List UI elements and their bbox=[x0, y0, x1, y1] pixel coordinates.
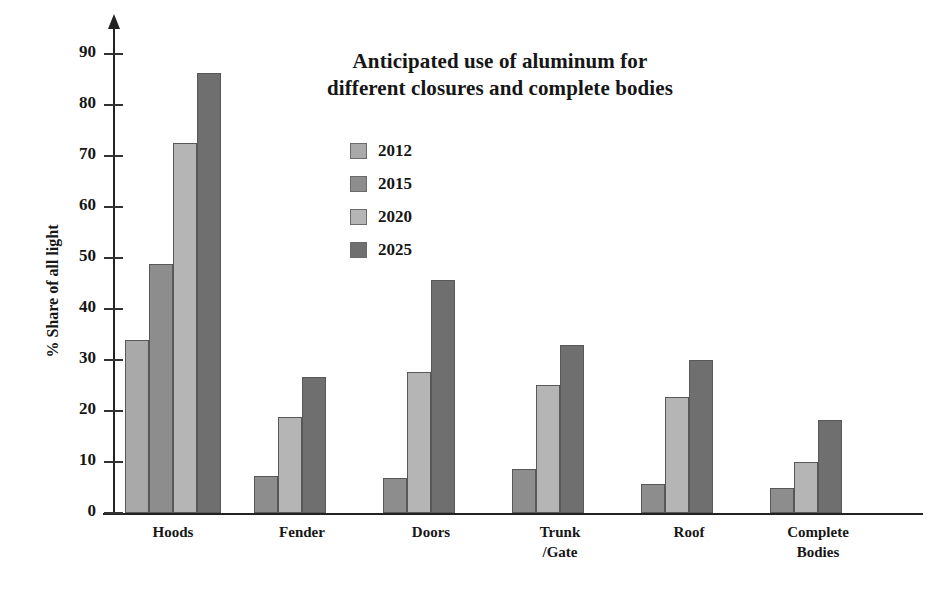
y-axis-tick: 20 bbox=[104, 410, 123, 412]
x-axis-category-label-line: Hoods bbox=[99, 522, 247, 542]
x-axis-category-label-line: Doors bbox=[357, 522, 505, 542]
y-axis-tick: 90 bbox=[104, 53, 123, 55]
x-axis-category-label-line: Complete bbox=[744, 522, 892, 542]
bar bbox=[125, 340, 149, 513]
bar bbox=[383, 478, 407, 513]
y-axis-tick: 40 bbox=[104, 308, 123, 310]
legend-label: 2012 bbox=[378, 141, 412, 161]
bar bbox=[512, 469, 536, 513]
y-axis-tick-label: 90 bbox=[79, 42, 96, 62]
legend-item: 2025 bbox=[350, 233, 412, 266]
x-axis-category-label: Hoods bbox=[99, 522, 247, 542]
y-axis-arrow-icon bbox=[108, 14, 120, 29]
legend-label: 2015 bbox=[378, 174, 412, 194]
y-axis-tick-label: 60 bbox=[79, 195, 96, 215]
y-axis-tick-label: 0 bbox=[88, 501, 97, 521]
y-axis-tick: 80 bbox=[104, 104, 123, 106]
x-axis-category-label-line: Bodies bbox=[744, 542, 892, 562]
bar bbox=[818, 420, 842, 513]
x-axis-category-label: Trunk/Gate bbox=[486, 522, 634, 563]
bar bbox=[173, 143, 197, 513]
x-axis-category-label: CompleteBodies bbox=[744, 522, 892, 563]
legend-item: 2020 bbox=[350, 200, 412, 233]
bar bbox=[794, 462, 818, 513]
bar bbox=[536, 385, 560, 513]
bar bbox=[278, 417, 302, 513]
bar bbox=[254, 476, 278, 513]
x-axis-category-label-line: Roof bbox=[615, 522, 763, 542]
legend-label: 2020 bbox=[378, 207, 412, 227]
y-axis-tick: 0 bbox=[104, 512, 123, 514]
x-axis-category-label: Roof bbox=[615, 522, 763, 542]
bar bbox=[770, 488, 794, 513]
legend-swatch-icon bbox=[350, 242, 367, 258]
y-axis-tick-label: 50 bbox=[79, 246, 96, 266]
y-axis-tick-label: 30 bbox=[79, 348, 96, 368]
x-axis-category-label: Fender bbox=[228, 522, 376, 542]
bar bbox=[197, 73, 221, 513]
y-axis-tick-label: 80 bbox=[79, 93, 96, 113]
bar bbox=[689, 360, 713, 514]
y-axis-tick: 10 bbox=[104, 461, 123, 463]
legend-item: 2015 bbox=[350, 167, 412, 200]
bar bbox=[641, 484, 665, 513]
bar bbox=[665, 397, 689, 513]
legend-swatch-icon bbox=[350, 143, 367, 159]
x-axis-category-label-line: Trunk bbox=[486, 522, 634, 542]
bar bbox=[431, 280, 455, 513]
y-axis-line bbox=[113, 26, 115, 513]
y-axis-tick-label: 70 bbox=[79, 144, 96, 164]
bar bbox=[560, 345, 584, 513]
bar bbox=[407, 372, 431, 513]
x-axis-category-label: Doors bbox=[357, 522, 505, 542]
legend-swatch-icon bbox=[350, 176, 367, 192]
y-axis-tick: 50 bbox=[104, 257, 123, 259]
y-axis-tick: 60 bbox=[104, 206, 123, 208]
legend-label: 2025 bbox=[378, 240, 412, 260]
x-axis-category-label-line: /Gate bbox=[486, 542, 634, 562]
legend-item: 2012 bbox=[350, 134, 412, 167]
y-axis-tick-label: 10 bbox=[79, 450, 96, 470]
y-axis-tick: 30 bbox=[104, 359, 123, 361]
x-axis-line bbox=[103, 513, 923, 515]
plot-area: 0102030405060708090 HoodsFenderDoorsTrun… bbox=[113, 54, 923, 513]
y-axis-tick: 70 bbox=[104, 155, 123, 157]
bar-chart-figure: Anticipated use of aluminum for differen… bbox=[0, 0, 936, 595]
x-axis-category-label-line: Fender bbox=[228, 522, 376, 542]
y-axis-tick-label: 40 bbox=[79, 297, 96, 317]
y-axis-title: % Share of all light bbox=[44, 176, 62, 406]
bar bbox=[302, 377, 326, 513]
y-axis-tick-label: 20 bbox=[79, 399, 96, 419]
bar bbox=[149, 264, 173, 513]
legend-swatch-icon bbox=[350, 209, 367, 225]
legend: 2012201520202025 bbox=[350, 134, 412, 266]
